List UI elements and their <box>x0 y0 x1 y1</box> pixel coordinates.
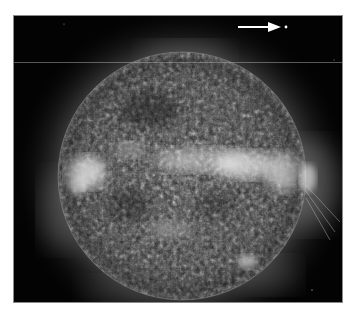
solar-image-frame <box>13 15 343 303</box>
marker-dot <box>285 26 288 29</box>
sun-disk <box>58 52 306 300</box>
sun-image <box>13 15 343 303</box>
horizontal-artifact-line <box>14 62 342 63</box>
